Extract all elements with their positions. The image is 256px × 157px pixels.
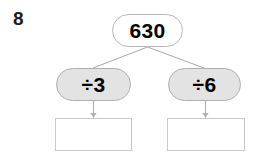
dividend-node: 630 [112,14,183,47]
answer-box-divide-by-3[interactable] [55,118,132,151]
operation-node-divide-by-3: ÷3 [56,68,131,101]
division-branch-worksheet: 8 630 ÷3 ÷6 [0,0,256,157]
operation-node-divide-by-6: ÷6 [168,68,241,101]
branch-line-right [148,47,205,68]
branch-line-left [93,47,148,68]
answer-box-divide-by-6[interactable] [167,118,245,151]
